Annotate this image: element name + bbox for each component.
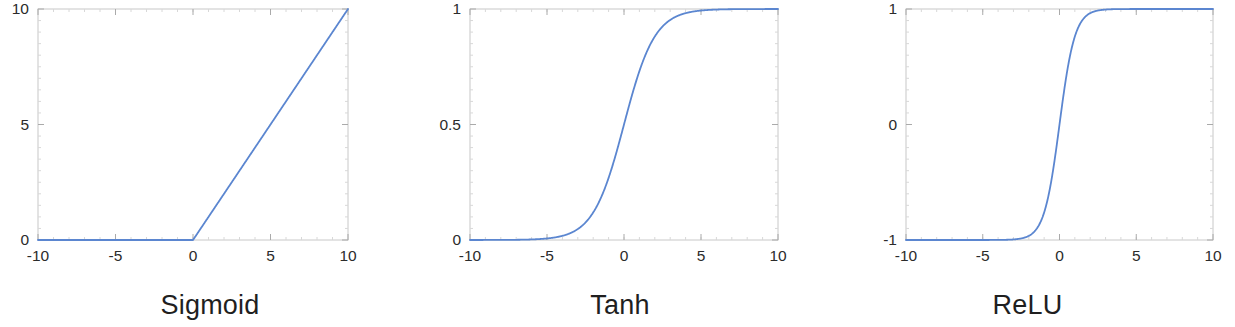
y-tick-label: 1 bbox=[452, 0, 461, 17]
x-tick-label: -10 bbox=[27, 247, 50, 264]
data-line bbox=[906, 9, 1213, 240]
panel-caption-tanh: Tanh bbox=[420, 290, 820, 321]
plot-frame bbox=[38, 9, 348, 240]
y-tick-label: 10 bbox=[12, 0, 30, 17]
plot-area-relu: -10-50510-101 bbox=[820, 0, 1235, 280]
plot-area-sigmoid: -10-505100510 bbox=[0, 0, 420, 280]
y-tick-label: 0.5 bbox=[439, 116, 461, 133]
panel-caption-relu: ReLU bbox=[820, 290, 1235, 321]
plot-area-tanh: -10-5051000.51 bbox=[420, 0, 820, 280]
x-tick-label: -5 bbox=[109, 247, 123, 264]
x-tick-label: 0 bbox=[1055, 247, 1064, 264]
data-line bbox=[38, 9, 348, 240]
chart-panel-relu: -10-50510-101 ReLU bbox=[820, 0, 1235, 327]
data-line bbox=[470, 9, 778, 240]
y-tick-label: 0 bbox=[888, 116, 897, 133]
y-tick-label: -1 bbox=[883, 231, 897, 248]
y-tick-label: 0 bbox=[452, 231, 461, 248]
activation-functions-figure: -10-505100510 Sigmoid -10-5051000.51 Tan… bbox=[0, 0, 1235, 327]
panel-caption-sigmoid: Sigmoid bbox=[0, 290, 420, 321]
x-tick-label: 10 bbox=[769, 247, 787, 264]
x-tick-label: 5 bbox=[266, 247, 275, 264]
y-tick-label: 1 bbox=[888, 0, 897, 17]
chart-panel-sigmoid: -10-505100510 Sigmoid bbox=[0, 0, 420, 327]
y-tick-label: 0 bbox=[20, 231, 29, 248]
y-tick-label: 5 bbox=[20, 116, 29, 133]
x-tick-label: 5 bbox=[1132, 247, 1141, 264]
x-tick-label: -10 bbox=[895, 247, 918, 264]
x-tick-label: 5 bbox=[697, 247, 706, 264]
x-tick-label: 0 bbox=[620, 247, 629, 264]
x-tick-label: 10 bbox=[339, 247, 357, 264]
x-tick-label: 0 bbox=[189, 247, 198, 264]
x-tick-label: -5 bbox=[540, 247, 554, 264]
x-tick-label: 10 bbox=[1204, 247, 1222, 264]
chart-panel-tanh: -10-5051000.51 Tanh bbox=[420, 0, 820, 327]
x-tick-label: -5 bbox=[976, 247, 990, 264]
x-tick-label: -10 bbox=[459, 247, 482, 264]
